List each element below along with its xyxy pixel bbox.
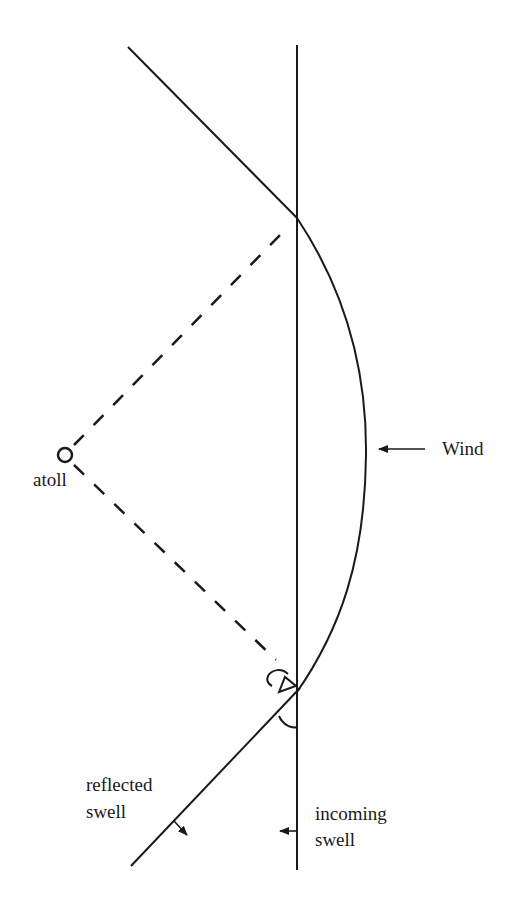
curved-swell-arc [297, 218, 366, 692]
reflected-swell-label-line1: reflected [86, 774, 153, 795]
wind-label: Wind [442, 438, 484, 459]
dashed-line-to-bottom [74, 465, 276, 660]
angle-arrow-mark [279, 677, 296, 692]
angle-arc-lower [279, 716, 297, 728]
reflected-swell-arrow [174, 821, 187, 835]
incoming-swell-label-line2: swell [315, 829, 355, 850]
reflected-swell-label-line2: swell [86, 801, 126, 822]
lower-reflected-swell-line [131, 688, 300, 866]
dashed-line-to-top [74, 228, 287, 445]
swell-reflection-diagram: atoll Wind reflected swell incoming swel… [0, 0, 524, 918]
atoll-marker [58, 448, 72, 462]
atoll-label: atoll [33, 469, 67, 490]
upper-diagonal-line [128, 47, 297, 218]
incoming-swell-label-line1: incoming [315, 803, 387, 824]
